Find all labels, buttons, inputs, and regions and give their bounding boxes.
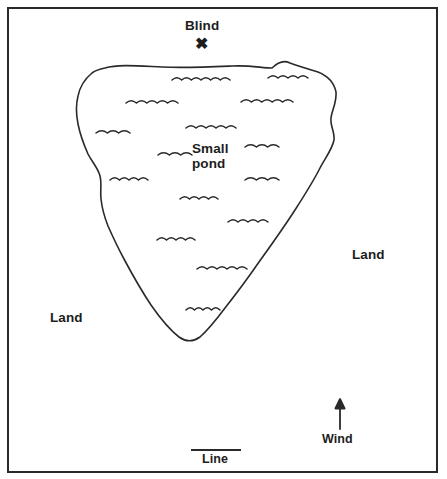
pond-blind-diagram: Blind ✖ Small pond Land Land Wind Line	[0, 0, 447, 479]
wave-mark	[268, 76, 308, 78]
wave-mark	[126, 101, 178, 103]
wave-mark	[172, 78, 230, 80]
wind-arrow-head	[335, 399, 344, 409]
wind-arrow	[335, 399, 344, 429]
wave-mark	[96, 131, 130, 133]
diagram-vector-layer	[0, 0, 447, 479]
land-label-right: Land	[352, 247, 385, 262]
wave-mark	[197, 267, 247, 269]
wave-mark	[245, 145, 279, 147]
blind-label: Blind	[185, 18, 219, 33]
wave-mark	[110, 178, 148, 180]
wave-mark	[228, 220, 268, 222]
wind-label: Wind	[322, 432, 353, 446]
pond-outline	[77, 62, 337, 341]
wave-mark	[180, 197, 218, 199]
pond-label: Small pond	[192, 141, 229, 171]
wave-marks-group	[96, 76, 308, 310]
wave-mark	[186, 126, 236, 128]
blind-x-marker: ✖	[195, 35, 208, 53]
line-label: Line	[202, 452, 228, 466]
wave-mark	[158, 153, 192, 155]
wave-mark	[241, 100, 293, 102]
wave-mark	[245, 178, 279, 180]
wave-mark	[186, 308, 220, 310]
wave-mark	[157, 238, 195, 240]
land-label-left: Land	[50, 310, 83, 325]
